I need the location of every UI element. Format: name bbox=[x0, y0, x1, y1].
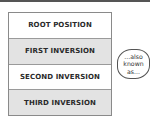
callout-line: known bbox=[123, 60, 143, 68]
callout-line: ...also bbox=[124, 53, 142, 61]
row-label: SECOND INVERSION bbox=[20, 73, 100, 81]
row-root-position: ROOT POSITION bbox=[9, 13, 111, 39]
row-label: ROOT POSITION bbox=[28, 21, 92, 29]
row-first-inversion: FIRST INVERSION bbox=[9, 39, 111, 65]
row-second-inversion: SECOND INVERSION bbox=[9, 65, 111, 91]
callout-line: as... bbox=[127, 68, 140, 76]
inversion-stack: ROOT POSITION FIRST INVERSION SECOND INV… bbox=[8, 12, 112, 116]
speech-bubble-callout: ...also known as... bbox=[117, 49, 150, 79]
row-label: THIRD INVERSION bbox=[24, 99, 96, 107]
row-third-inversion: THIRD INVERSION bbox=[9, 90, 111, 115]
row-label: FIRST INVERSION bbox=[25, 47, 95, 55]
top-rule bbox=[0, 0, 150, 2]
